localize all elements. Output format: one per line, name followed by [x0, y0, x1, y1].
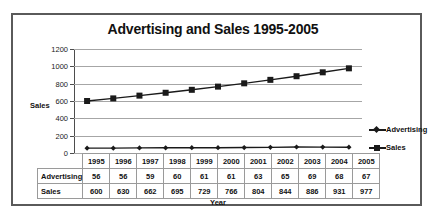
table-cell: 56 [110, 169, 137, 184]
table-cell: 68 [326, 169, 353, 184]
data-point-marker [346, 145, 351, 150]
table-cell: 804 [245, 184, 272, 199]
data-point-marker [320, 69, 326, 75]
table-cell: 61 [218, 169, 245, 184]
diamond-marker-icon [369, 125, 386, 134]
data-point-marker [111, 146, 116, 151]
table-row-header: Sales [38, 184, 83, 199]
x-axis-title: Year [74, 198, 362, 207]
table-column-header: 2003 [299, 154, 326, 169]
data-point-marker [189, 145, 194, 150]
chart-title: Advertising and Sales 1995-2005 [63, 21, 363, 37]
chart-frame: Advertising and Sales 1995-2005 Sales 02… [11, 13, 422, 206]
data-point-marker [267, 77, 273, 83]
y-axis-title: Sales [30, 101, 50, 110]
data-point-marker [136, 93, 142, 99]
legend-item-label: Sales [386, 143, 406, 152]
table-cell: 65 [272, 169, 299, 184]
table-column-header: 1997 [137, 154, 164, 169]
table-cell: 59 [137, 169, 164, 184]
y-axis-tick-label: 200 [55, 131, 68, 140]
table-cell: 69 [299, 169, 326, 184]
data-point-marker [163, 90, 169, 96]
table-cell: 600 [83, 184, 110, 199]
y-axis-tick-label: 1000 [51, 62, 68, 71]
y-axis-tick-label: 400 [55, 114, 68, 123]
y-axis-tick-label: 800 [55, 79, 68, 88]
table-cell: 67 [353, 169, 380, 184]
data-point-marker [268, 145, 273, 150]
table-cell: 766 [218, 184, 245, 199]
data-point-marker [241, 80, 247, 86]
table-cell: 729 [191, 184, 218, 199]
data-point-marker [215, 84, 221, 90]
data-table: 1995199619971998199920002001200220032004… [37, 153, 380, 199]
data-point-marker [84, 98, 90, 104]
table-row: Sales600630662695729766804844886931977 [38, 184, 380, 199]
table-cell: 695 [164, 184, 191, 199]
data-point-marker [189, 87, 195, 93]
series-lines [74, 49, 362, 153]
plot-area: 020040060080010001200 [74, 49, 362, 153]
table-cell: 931 [326, 184, 353, 199]
data-point-marker [110, 95, 116, 101]
y-axis-tick-label: 600 [55, 97, 68, 106]
data-point-marker [84, 146, 89, 151]
table-column-header: 2000 [218, 154, 245, 169]
data-point-marker [294, 144, 299, 149]
table-cell: 61 [191, 169, 218, 184]
table-row-header: Advertising [38, 169, 83, 184]
table-corner-cell [38, 154, 83, 169]
table-column-header: 2001 [245, 154, 272, 169]
y-axis-tick-label: 1200 [51, 45, 68, 54]
legend-item-label: Advertising [386, 125, 427, 134]
table-cell: 63 [245, 169, 272, 184]
table-column-header: 2005 [353, 154, 380, 169]
table-cell: 844 [272, 184, 299, 199]
table-column-header: 2002 [272, 154, 299, 169]
data-point-marker [320, 145, 325, 150]
table-row: Advertising5656596061616365696867 [38, 169, 380, 184]
data-point-marker [215, 145, 220, 150]
data-point-marker [346, 65, 352, 71]
data-point-marker [163, 145, 168, 150]
table-cell: 56 [83, 169, 110, 184]
table-cell: 60 [164, 169, 191, 184]
table-cell: 886 [299, 184, 326, 199]
table-cell: 630 [110, 184, 137, 199]
table-cell: 977 [353, 184, 380, 199]
table-header-row: 1995199619971998199920002001200220032004… [38, 154, 380, 169]
data-point-marker [294, 73, 300, 79]
table-column-header: 1995 [83, 154, 110, 169]
legend-item-advertising[interactable]: Advertising [369, 123, 434, 136]
data-point-marker [137, 145, 142, 150]
table-column-header: 1998 [164, 154, 191, 169]
table-column-header: 2004 [326, 154, 353, 169]
table-column-header: 1999 [191, 154, 218, 169]
table-cell: 662 [137, 184, 164, 199]
data-point-marker [242, 145, 247, 150]
table-column-header: 1996 [110, 154, 137, 169]
square-marker-icon [369, 143, 386, 152]
